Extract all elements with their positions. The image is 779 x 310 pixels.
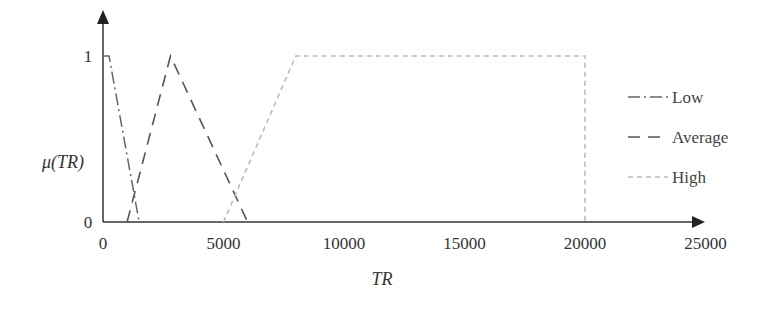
membership-function-chart: 0500010000150002000025000 01 TR μ(TR) Lo…	[0, 0, 779, 310]
y-tick-label: 1	[84, 47, 93, 66]
legend-label-average: Average	[672, 128, 728, 147]
y-tick-labels: 01	[84, 47, 93, 232]
x-tick-labels: 0500010000150002000025000	[99, 234, 727, 253]
series-lines	[103, 56, 585, 222]
legend-label-low: Low	[672, 88, 704, 107]
x-tick-label: 25000	[684, 234, 727, 253]
y-axis-label: μ(TR)	[41, 152, 84, 173]
x-tick-label: 10000	[323, 234, 366, 253]
legend-label-high: High	[672, 168, 707, 187]
x-tick-label: 20000	[564, 234, 607, 253]
x-axis-label: TR	[371, 269, 392, 289]
axes	[97, 10, 705, 228]
x-tick-label: 0	[99, 234, 108, 253]
x-axis-arrow-icon	[692, 216, 705, 228]
y-axis-arrow-icon	[97, 10, 109, 24]
series-line-average	[127, 56, 248, 222]
legend: LowAverageHigh	[628, 88, 728, 187]
x-tick-label: 15000	[443, 234, 486, 253]
series-line-high	[224, 56, 586, 222]
y-tick-label: 0	[84, 213, 93, 232]
x-tick-label: 5000	[207, 234, 241, 253]
